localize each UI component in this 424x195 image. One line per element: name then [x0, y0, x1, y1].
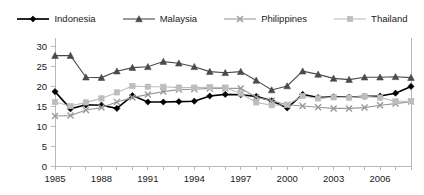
data-point	[176, 99, 182, 105]
data-point	[254, 100, 259, 105]
legend-marker-diamond-icon	[16, 13, 50, 25]
data-point	[284, 102, 289, 107]
legend-label: Indonesia	[54, 13, 95, 25]
data-point	[130, 83, 135, 88]
x-tick-label: 1991	[137, 173, 158, 184]
data-point	[393, 99, 398, 104]
x-tick-label: 2006	[369, 173, 390, 184]
data-point	[145, 99, 151, 105]
data-point	[238, 91, 243, 96]
data-point	[300, 93, 305, 98]
legend-marker-triangle-icon	[122, 13, 156, 25]
x-tick-label: 1994	[184, 173, 205, 184]
data-point	[362, 94, 367, 99]
data-point	[299, 68, 306, 74]
data-point	[222, 91, 228, 97]
x-axis-labels: 19851988199119941997200020032006	[44, 173, 390, 184]
y-axis-labels: 051015202530	[36, 41, 47, 172]
x-tick-label: 1997	[230, 173, 251, 184]
legend-item-indonesia[interactable]: Indonesia	[16, 13, 95, 25]
data-point	[114, 99, 120, 105]
data-point	[192, 85, 197, 90]
data-point	[331, 95, 336, 100]
y-tick-label: 0	[42, 161, 47, 172]
legend-marker-x-icon	[223, 13, 257, 25]
legend-label: Malaysia	[160, 13, 198, 25]
legend-item-thailand[interactable]: Thailand	[333, 13, 407, 25]
series-line	[55, 56, 411, 90]
data-point	[68, 103, 73, 108]
data-point	[114, 90, 119, 95]
series-malaysia	[52, 52, 415, 93]
data-point	[408, 99, 413, 104]
data-point	[377, 95, 382, 100]
y-tick-label: 30	[36, 41, 47, 52]
series-line	[55, 88, 411, 116]
data-point	[161, 84, 166, 89]
x-tick-label: 2003	[323, 173, 344, 184]
data-point	[145, 84, 150, 89]
data-point	[52, 99, 57, 104]
y-tick-label: 20	[36, 81, 47, 92]
data-point	[315, 96, 320, 101]
data-point	[346, 95, 351, 100]
legend-item-philippines[interactable]: Philippines	[223, 13, 307, 25]
data-series-group	[52, 52, 415, 119]
data-point	[207, 85, 212, 90]
y-tick-label: 5	[42, 141, 47, 152]
x-tick-label: 1985	[44, 173, 65, 184]
data-point	[83, 100, 88, 105]
data-point	[191, 98, 197, 104]
legend-marker-square-icon	[333, 13, 367, 25]
x-tick-label: 2000	[277, 173, 298, 184]
data-point	[223, 85, 228, 90]
y-tick-label: 15	[36, 101, 47, 112]
legend-label: Thailand	[371, 13, 407, 25]
y-tick-label: 25	[36, 61, 47, 72]
data-point	[99, 96, 104, 101]
legend-item-malaysia[interactable]: Malaysia	[122, 13, 198, 25]
data-point	[176, 85, 181, 90]
data-point	[408, 83, 414, 89]
axis-lines-group	[55, 38, 411, 166]
data-point	[392, 90, 398, 96]
data-point	[253, 77, 260, 83]
plot-area: 051015202530 198519881991199419972000200…	[0, 32, 424, 195]
chart-legend: IndonesiaMalaysiaPhilippinesThailand	[0, 8, 424, 30]
plot-svg: 051015202530 198519881991199419972000200…	[0, 32, 424, 195]
y-tick-label: 10	[36, 121, 47, 132]
x-tick-label: 1988	[91, 173, 112, 184]
legend-label: Philippines	[261, 13, 307, 25]
data-point	[269, 103, 274, 108]
data-point	[160, 99, 166, 105]
line-chart: IndonesiaMalaysiaPhilippinesThailand 051…	[0, 0, 424, 195]
data-point	[207, 93, 213, 99]
